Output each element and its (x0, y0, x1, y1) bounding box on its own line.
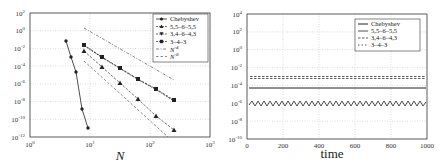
left-y-tick-labels: 102 100 10-2 10-4 10-6 10-8 10-10 10-12 (11, 9, 25, 142)
svg-text:10-12: 10-12 (11, 133, 25, 142)
svg-text:10-8: 10-8 (231, 117, 243, 126)
svg-text:104: 104 (233, 10, 243, 19)
svg-text:10-6: 10-6 (14, 79, 26, 88)
left-x-axis-label: N (115, 148, 126, 163)
svg-text:0: 0 (245, 142, 249, 150)
svg-text:10-10: 10-10 (11, 115, 25, 124)
svg-text:100: 100 (25, 140, 35, 149)
figure: 102 100 10-2 10-4 10-6 10-8 10-10 10-12 … (0, 0, 446, 164)
right-chart: 104 102 100 10-2 10-4 10-6 10-8 10-10 0 … (228, 10, 434, 162)
svg-text:200: 200 (278, 142, 289, 150)
svg-text:10-2: 10-2 (14, 44, 26, 53)
left-legend: Chebyshev 5,5–6–5,5 3,4–6–4,3 3–4–3 N-4 … (153, 14, 208, 62)
svg-text:3,4–6–4,3: 3,4–6–4,3 (170, 30, 196, 37)
svg-text:1000: 1000 (420, 142, 435, 150)
svg-text:3–4–3: 3–4–3 (371, 41, 387, 48)
svg-text:3–4–3: 3–4–3 (170, 38, 186, 45)
svg-text:10-4: 10-4 (231, 81, 243, 90)
svg-text:100: 100 (233, 45, 243, 54)
svg-text:103: 103 (205, 140, 215, 149)
svg-text:102: 102 (145, 140, 155, 149)
right-y-tick-labels: 104 102 100 10-2 10-4 10-6 10-8 10-10 (228, 10, 242, 144)
svg-text:10-4: 10-4 (14, 62, 26, 71)
svg-text:3,4–6–4,3: 3,4–6–4,3 (371, 34, 397, 41)
right-series-5-5-6-5-5 (249, 101, 426, 106)
svg-text:100: 100 (16, 26, 26, 35)
svg-text:102: 102 (233, 27, 243, 36)
svg-text:10-6: 10-6 (231, 99, 243, 108)
svg-text:10-10: 10-10 (228, 135, 242, 144)
svg-text:800: 800 (386, 142, 397, 150)
right-x-axis-label: time (320, 146, 343, 161)
svg-text:Chebyshev: Chebyshev (371, 20, 401, 27)
series-5-5-6-5-5 (84, 51, 174, 130)
svg-text:Chebyshev: Chebyshev (170, 15, 200, 22)
svg-text:5,5–6–5,5: 5,5–6–5,5 (170, 23, 196, 30)
svg-text:10-8: 10-8 (14, 97, 26, 106)
series-chebyshev (66, 41, 88, 128)
svg-text:102: 102 (16, 9, 26, 18)
svg-text:5,5–6–5,5: 5,5–6–5,5 (371, 27, 397, 34)
svg-text:10-2: 10-2 (231, 63, 243, 72)
svg-text:600: 600 (350, 142, 361, 150)
left-chart: 102 100 10-2 10-4 10-6 10-8 10-10 10-12 … (11, 9, 215, 164)
right-legend: Chebyshev 5,5–6–5,5 3,4–6–4,3 3–4–3 (355, 19, 420, 51)
svg-text:101: 101 (85, 140, 95, 149)
